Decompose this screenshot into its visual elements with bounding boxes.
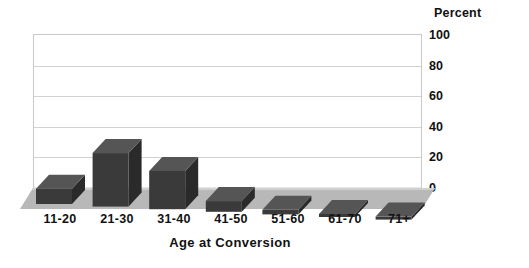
y-tick-40: 40 (429, 120, 443, 134)
gridline-20 (34, 157, 421, 158)
x-label-1: 21-30 (100, 212, 133, 226)
bar-chart: Percent 100 80 60 40 20 0 11-20 21-30 31… (0, 0, 529, 268)
x-label-0: 11-20 (44, 212, 77, 226)
x-label-4: 51-60 (271, 212, 304, 226)
x-axis-title: Age at Conversion (0, 235, 460, 250)
chart-floor (20, 188, 435, 210)
gridline-80 (34, 66, 421, 67)
x-label-5: 61-70 (328, 212, 361, 226)
gridline-60 (34, 96, 421, 97)
plot-area (33, 34, 422, 189)
y-tick-20: 20 (429, 150, 443, 164)
x-label-6: 71+ (388, 212, 410, 226)
y-tick-60: 60 (429, 89, 443, 103)
x-label-2: 31-40 (157, 212, 190, 226)
y-axis-title: Percent (434, 6, 481, 20)
gridline-40 (34, 127, 421, 128)
x-label-3: 41-50 (214, 212, 247, 226)
y-tick-100: 100 (429, 28, 450, 42)
y-tick-80: 80 (429, 59, 443, 73)
